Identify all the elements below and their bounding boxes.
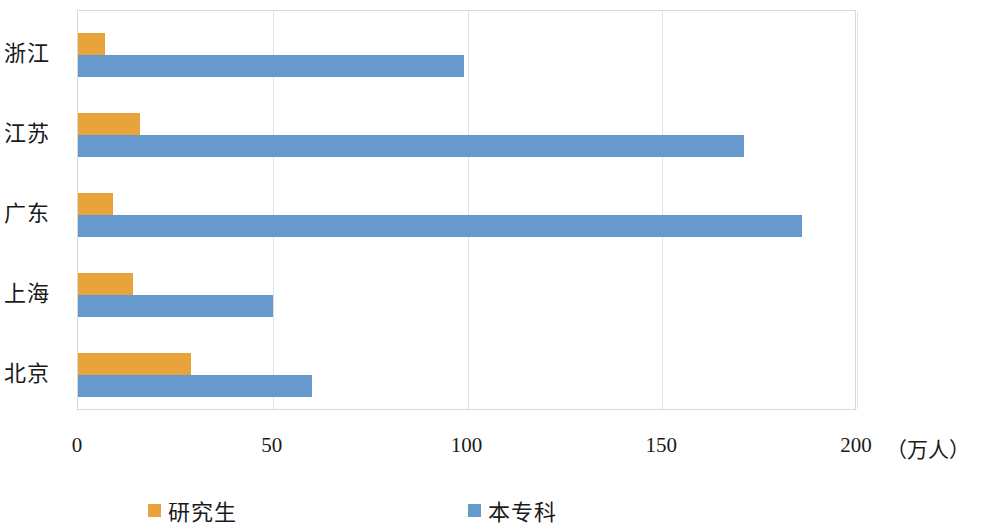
y-axis-label-4: 北京	[4, 363, 70, 385]
y-axis-label-1: 江苏	[4, 123, 70, 145]
bar-group	[78, 91, 855, 171]
plot-area	[77, 10, 856, 410]
bar-group	[78, 331, 855, 411]
legend-swatch-undergraduate-icon	[468, 504, 481, 517]
bar-group	[78, 171, 855, 251]
x-axis-tick-150: 150	[646, 433, 678, 458]
bar-undergraduate[interactable]	[78, 135, 744, 157]
legend-swatch-graduate-icon	[148, 504, 161, 517]
horizontal-bar-chart: 浙江江苏广东上海北京 050100150200 （万人） 研究生 本专科	[0, 0, 984, 532]
x-axis-tick-200: 200	[840, 433, 872, 458]
y-axis-label-0: 浙江	[4, 43, 70, 65]
bar-undergraduate[interactable]	[78, 375, 312, 397]
bar-undergraduate[interactable]	[78, 55, 464, 77]
bar-group	[78, 251, 855, 331]
x-axis-unit-label: （万人）	[886, 433, 970, 463]
bar-graduate[interactable]	[78, 193, 113, 215]
y-axis-label-3: 上海	[4, 283, 70, 305]
bar-undergraduate[interactable]	[78, 295, 273, 317]
bar-undergraduate[interactable]	[78, 215, 802, 237]
bar-graduate[interactable]	[78, 33, 105, 55]
x-axis-tick-100: 100	[451, 433, 483, 458]
legend-label-graduate: 研究生	[168, 494, 237, 526]
legend-item-graduate[interactable]: 研究生	[148, 494, 237, 526]
x-axis-tick-0: 0	[72, 433, 83, 458]
legend-item-undergraduate[interactable]: 本专科	[468, 494, 557, 526]
bar-graduate[interactable]	[78, 273, 133, 295]
bar-group	[78, 11, 855, 91]
gridline-200	[857, 11, 858, 409]
x-axis-tick-50: 50	[261, 433, 282, 458]
chart-legend: 研究生 本专科	[0, 494, 984, 532]
legend-label-undergraduate: 本专科	[488, 494, 557, 526]
bar-graduate[interactable]	[78, 353, 191, 375]
bar-graduate[interactable]	[78, 113, 140, 135]
y-axis-label-2: 广东	[4, 203, 70, 225]
